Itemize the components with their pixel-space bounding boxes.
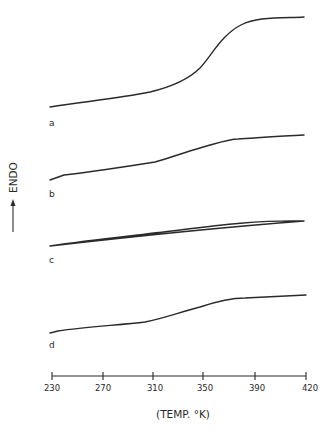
x-tick-label: 230 xyxy=(44,383,60,393)
x-tick-label: 270 xyxy=(95,383,111,393)
label-c: c xyxy=(49,255,54,265)
curve-b xyxy=(50,135,304,180)
curve-a xyxy=(50,17,304,107)
x-tick-label: 390 xyxy=(249,383,265,393)
x-tick-label: 420 xyxy=(302,383,318,393)
x-tick-label: 350 xyxy=(197,383,213,393)
label-d: d xyxy=(49,340,55,350)
arrow-up-icon xyxy=(11,199,16,206)
y-axis-label: ENDO xyxy=(7,162,19,193)
x-axis-label: (TEMP. °K) xyxy=(156,408,210,420)
curve-c xyxy=(50,221,304,246)
dsc-chart: a b c d ENDO 230 270 310 350 390 420 (TE… xyxy=(0,0,330,433)
label-a: a xyxy=(49,118,55,128)
x-tick-label: 310 xyxy=(147,383,163,393)
curve-d xyxy=(50,295,306,333)
label-b: b xyxy=(49,189,55,199)
